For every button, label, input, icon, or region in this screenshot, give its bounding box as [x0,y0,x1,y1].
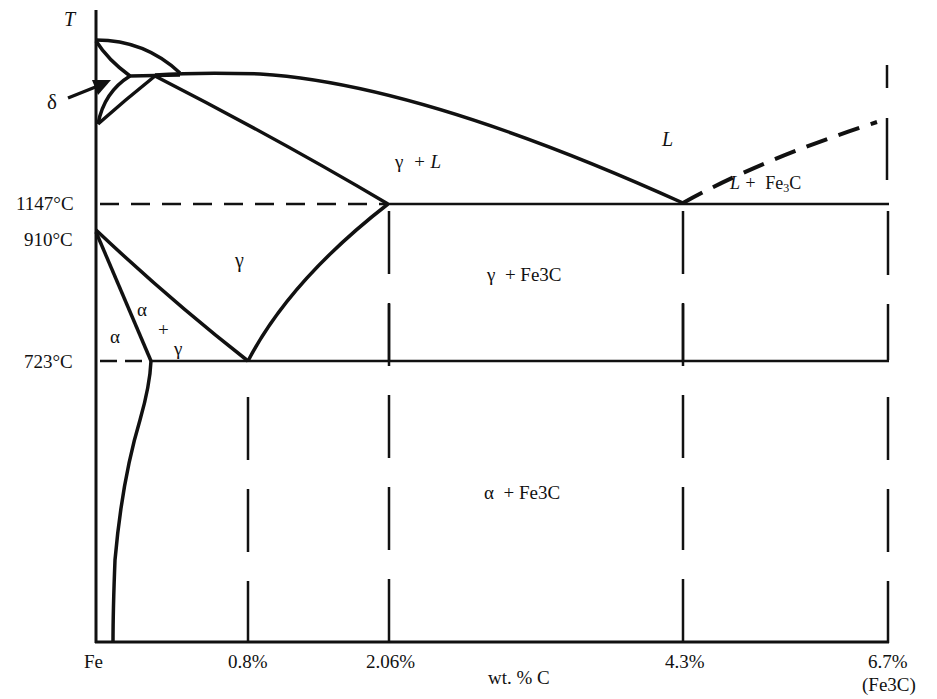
delta-label: δ [47,92,57,113]
region-liquid-plus-cementite: L + Fe3C [730,174,801,194]
x-axis-label: wt. % C [488,668,550,687]
delta-solvus-upper [96,41,130,76]
delta-arrow-shaft [68,86,98,98]
gamma-solidus-line [155,76,388,204]
temp-label-723: 723°C [24,352,73,371]
temp-label-910: 910°C [24,230,73,249]
x-tick-2.06: 2.06% [366,652,415,671]
region-gamma-plus-cementite-a: γ [487,264,495,285]
region-alpha-plus-cementite: α + Fe3C [484,483,560,502]
region-gamma-plus-liquid-b: + L [413,151,441,172]
region-liquid: L [662,129,673,149]
region-gamma-plus-cementite: γ + Fe3C [487,265,562,284]
region-liquid-plus-cementite-c: C [789,173,801,193]
x-tick-0.8: 0.8% [228,652,268,671]
x-tick-4.3: 4.3% [665,652,705,671]
region-liquid-plus-cementite-b: Fe [765,173,783,193]
x-tick-fe: Fe [84,652,103,671]
region-gamma-plus-liquid-a: γ [395,151,403,172]
region-gamma-plus-cementite-b: + Fe3C [505,264,562,285]
region-gamma-plus-liquid: γ + L [395,152,441,171]
y-axis-label: T [64,9,75,29]
temp-label-1147: 1147°C [16,194,74,213]
region-liquid-plus-cementite-a: L + [730,173,756,193]
region-alpha-plus-cementite-b: + Fe3C [503,482,560,503]
alpha-gamma-boundary [96,232,151,361]
x-tick-6.7: 6.7% [868,652,908,671]
region-alpha: α [110,327,120,346]
region-alpha-plus-gamma-a: α [137,300,147,319]
alpha-solvus-line [113,361,151,643]
liquidus-line [155,73,683,203]
region-gamma: γ [235,250,244,270]
region-alpha-plus-gamma-b: + [158,320,169,339]
phase-diagram-lines [0,0,937,699]
acm-line [248,204,388,361]
x-tick-6.7-sublabel: (Fe3C) [862,675,916,694]
region-alpha-plus-gamma-c: γ [174,339,182,358]
region-alpha-plus-cementite-a: α [484,482,494,503]
